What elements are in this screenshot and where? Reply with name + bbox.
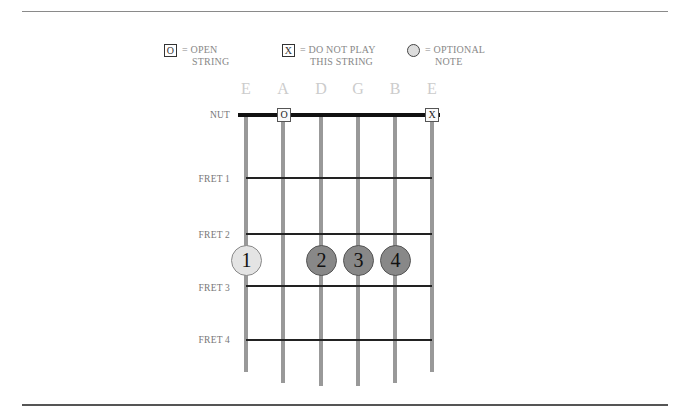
- fret-1: [246, 177, 432, 179]
- fret-3: [246, 285, 432, 287]
- mute-string-icon: X: [282, 44, 295, 57]
- string-name-a: A: [273, 80, 293, 98]
- optional-note-icon: [407, 44, 420, 57]
- legend-mute-line2: THIS STRING: [300, 56, 376, 68]
- legend-optional-line1: = OPTIONAL: [425, 44, 485, 56]
- fret-1-label: FRET 1: [170, 174, 230, 184]
- fret-2: [246, 233, 432, 235]
- fret-3-label: FRET 3: [170, 283, 230, 293]
- string-name-e-low: E: [236, 80, 256, 98]
- nut: [238, 113, 440, 117]
- open-string-marker-a: O: [277, 108, 291, 122]
- legend-optional-line2: NOTE: [425, 56, 485, 68]
- mute-string-marker-e-high: X: [425, 108, 439, 122]
- legend-mute-line1: = DO NOT PLAY: [300, 44, 376, 56]
- string-e-high: [430, 115, 434, 372]
- string-a: [281, 115, 285, 383]
- string-name-g: G: [348, 80, 368, 98]
- fret-4-label: FRET 4: [170, 335, 230, 345]
- bottom-divider: [22, 404, 668, 406]
- string-e-low: [244, 115, 248, 372]
- string-name-d: D: [311, 80, 331, 98]
- open-string-icon: O: [164, 44, 177, 57]
- finger-dot-4: 4: [380, 245, 411, 276]
- string-name-b: B: [385, 80, 405, 98]
- finger-dot-1-optional: 1: [231, 245, 262, 276]
- string-name-e-high: E: [422, 80, 442, 98]
- legend-open-line2: STRING: [182, 56, 229, 68]
- top-divider: [22, 11, 668, 12]
- fret-2-label: FRET 2: [170, 230, 230, 240]
- fret-4: [246, 339, 432, 341]
- finger-dot-2: 2: [306, 245, 337, 276]
- finger-dot-3: 3: [343, 245, 374, 276]
- legend-open-line1: = OPEN: [182, 44, 229, 56]
- nut-label: NUT: [170, 110, 230, 120]
